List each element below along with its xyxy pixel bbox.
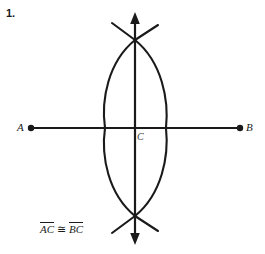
arc-tick-top-right <box>135 25 158 40</box>
arrowhead-down-icon <box>130 233 140 245</box>
arc-tick-bottom-left <box>112 216 135 233</box>
segment-bc-notation: BC <box>69 222 83 235</box>
arc-tick-bottom-right <box>135 216 158 231</box>
figure-page: 1. A B C AC≅BC <box>0 0 265 254</box>
congruence-statement: AC≅BC <box>40 222 83 236</box>
arc-tick-top-left <box>112 23 135 40</box>
point-label-c: C <box>137 131 144 142</box>
segment-ac-notation: AC <box>40 222 54 235</box>
point-label-a: A <box>17 121 24 133</box>
point-a-dot <box>28 125 34 131</box>
arrowhead-up-icon <box>130 12 140 24</box>
geometry-figure <box>0 0 265 254</box>
point-b-dot <box>237 125 243 131</box>
congruence-symbol: ≅ <box>54 223 69 235</box>
point-label-b: B <box>246 121 253 133</box>
